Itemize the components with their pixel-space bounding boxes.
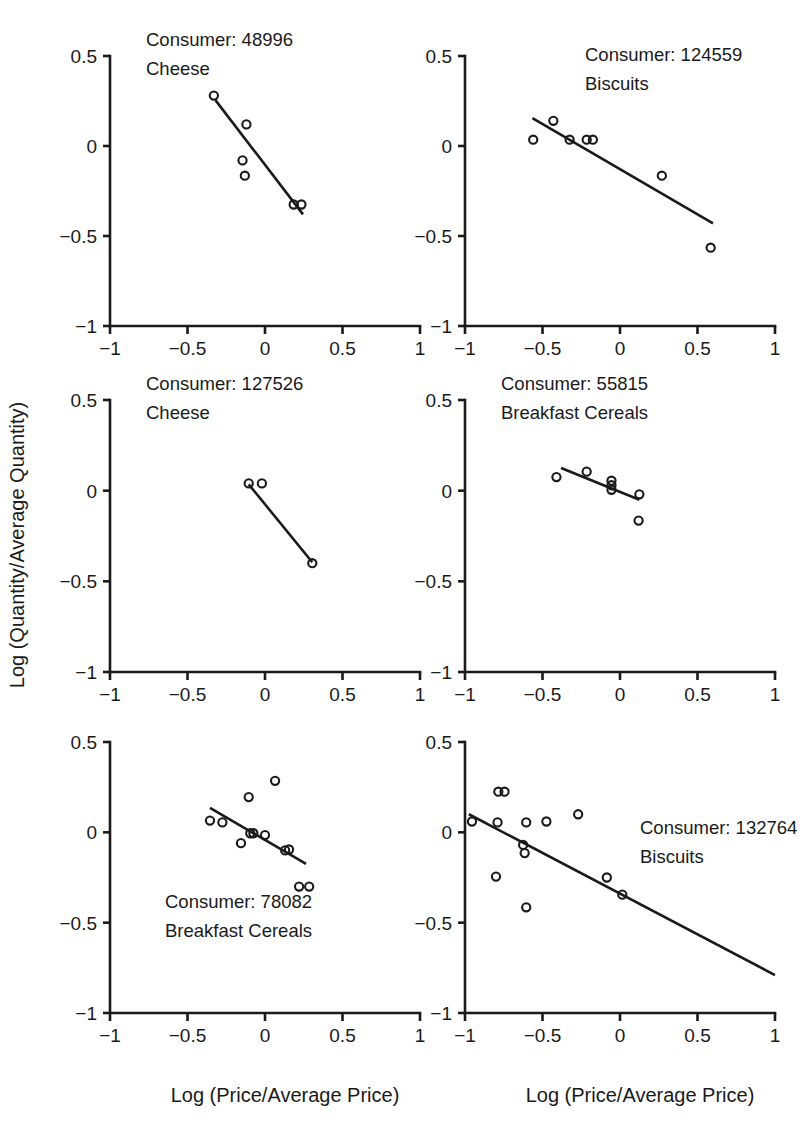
x-tick-label: −1 bbox=[99, 684, 121, 705]
y-tick-label: 0 bbox=[441, 822, 452, 843]
panel-title-consumer: Consumer: 55815 bbox=[501, 373, 648, 394]
y-tick-label: −0.5 bbox=[414, 571, 452, 592]
panel-title-consumer: Consumer: 78082 bbox=[165, 891, 312, 912]
x-tick-label: 1 bbox=[415, 1025, 426, 1046]
x-tick-label: −0.5 bbox=[169, 684, 207, 705]
x-tick-label: −0.5 bbox=[524, 1025, 562, 1046]
x-tick-label: −1 bbox=[454, 338, 476, 359]
y-tick-label: 0.5 bbox=[426, 732, 452, 753]
y-tick-label: 0 bbox=[86, 822, 97, 843]
y-tick-label: 0.5 bbox=[71, 732, 97, 753]
y-tick-label: −1 bbox=[75, 662, 97, 683]
x-axis-title-left: Log (Price/Average Price) bbox=[171, 1084, 400, 1106]
panel-title-product: Biscuits bbox=[640, 846, 704, 867]
y-tick-label: 0 bbox=[86, 481, 97, 502]
panel-title-product: Breakfast Cereals bbox=[165, 920, 312, 941]
x-tick-label: −1 bbox=[99, 338, 121, 359]
figure-panel-grid: 0.50−0.5−1−1−0.500.51Consumer: 48996Chee… bbox=[0, 0, 803, 1123]
y-tick-label: −1 bbox=[430, 316, 452, 337]
scatter-grid-svg: 0.50−0.5−1−1−0.500.51Consumer: 48996Chee… bbox=[0, 0, 803, 1123]
x-tick-label: 0 bbox=[615, 1025, 626, 1046]
x-tick-label: −0.5 bbox=[524, 684, 562, 705]
figure-background bbox=[0, 0, 803, 1123]
x-tick-label: 0 bbox=[615, 684, 626, 705]
x-tick-label: −1 bbox=[99, 1025, 121, 1046]
x-tick-label: 1 bbox=[770, 684, 781, 705]
x-tick-label: 0 bbox=[260, 684, 271, 705]
x-axis-title-right: Log (Price/Average Price) bbox=[526, 1084, 755, 1106]
y-tick-label: −1 bbox=[430, 662, 452, 683]
panel-title-consumer: Consumer: 48996 bbox=[146, 29, 293, 50]
y-tick-label: −0.5 bbox=[59, 226, 97, 247]
y-axis-title: Log (Quantity/Average Quantity) bbox=[6, 402, 28, 688]
y-tick-label: −0.5 bbox=[59, 913, 97, 934]
panel-title-product: Cheese bbox=[146, 58, 210, 79]
y-tick-label: −1 bbox=[75, 316, 97, 337]
x-tick-label: 1 bbox=[770, 1025, 781, 1046]
panel-title-product: Cheese bbox=[146, 402, 210, 423]
y-tick-label: −1 bbox=[430, 1003, 452, 1024]
y-tick-label: 0 bbox=[441, 136, 452, 157]
panel-title-consumer: Consumer: 127526 bbox=[146, 373, 303, 394]
panel-title-consumer: Consumer: 132764 bbox=[640, 817, 797, 838]
x-tick-label: 0.5 bbox=[684, 338, 710, 359]
y-tick-label: 0 bbox=[86, 136, 97, 157]
y-tick-label: −0.5 bbox=[414, 226, 452, 247]
x-tick-label: −0.5 bbox=[169, 338, 207, 359]
x-tick-label: 1 bbox=[415, 684, 426, 705]
y-tick-label: 0.5 bbox=[71, 390, 97, 411]
x-tick-label: −1 bbox=[454, 684, 476, 705]
y-tick-label: 0.5 bbox=[71, 46, 97, 67]
x-tick-label: 0.5 bbox=[684, 684, 710, 705]
panel-title-consumer: Consumer: 124559 bbox=[585, 44, 742, 65]
y-tick-label: 0.5 bbox=[426, 46, 452, 67]
y-tick-label: −0.5 bbox=[59, 571, 97, 592]
y-tick-label: −1 bbox=[75, 1003, 97, 1024]
y-tick-label: 0.5 bbox=[426, 390, 452, 411]
x-tick-label: −0.5 bbox=[169, 1025, 207, 1046]
y-tick-label: 0 bbox=[441, 481, 452, 502]
y-tick-label: −0.5 bbox=[414, 913, 452, 934]
x-tick-label: 1 bbox=[415, 338, 426, 359]
x-tick-label: 0.5 bbox=[329, 1025, 355, 1046]
x-tick-label: 0 bbox=[260, 1025, 271, 1046]
x-tick-label: −0.5 bbox=[524, 338, 562, 359]
x-tick-label: 0 bbox=[615, 338, 626, 359]
x-tick-label: 0 bbox=[260, 338, 271, 359]
panel-title-product: Breakfast Cereals bbox=[501, 402, 648, 423]
x-tick-label: −1 bbox=[454, 1025, 476, 1046]
x-tick-label: 1 bbox=[770, 338, 781, 359]
panel-title-product: Biscuits bbox=[585, 73, 649, 94]
x-tick-label: 0.5 bbox=[329, 338, 355, 359]
x-tick-label: 0.5 bbox=[329, 684, 355, 705]
x-tick-label: 0.5 bbox=[684, 1025, 710, 1046]
